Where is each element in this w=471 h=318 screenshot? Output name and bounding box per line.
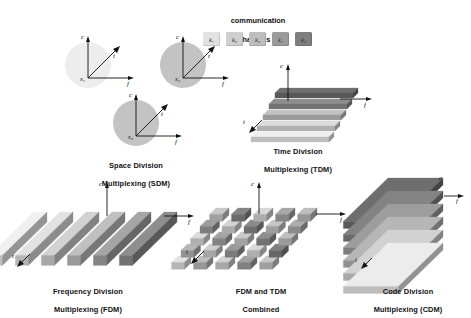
- combined-block-2-1-front: [200, 226, 213, 233]
- combined-block-2-2-front: [222, 226, 235, 233]
- channel-chip-4: k₄: [272, 32, 289, 46]
- tdm-axis-c: c: [280, 62, 283, 70]
- tdm-slab-1-front: [275, 93, 353, 98]
- tdm-slab-4-front: [257, 126, 335, 131]
- cdm-axis-c: c: [439, 174, 442, 182]
- sdm-axis-t-2: t: [208, 52, 210, 60]
- fdm-axis-t: t: [12, 252, 14, 260]
- panel-cdm-caption-line1: Code Division: [348, 287, 468, 296]
- sdm-axis-f-3: f: [175, 138, 177, 146]
- fdm-slab-5-front: [93, 255, 106, 265]
- panel-cdm-caption-line2: Multiplexing (CDM): [348, 305, 468, 314]
- sdm-axis-t-1: t: [113, 52, 115, 60]
- combined-block-5-3-front: [216, 262, 229, 269]
- combined-block-5-5-front: [260, 262, 273, 269]
- panel-fdm-caption: Frequency Division Multiplexing (FDM): [28, 278, 148, 318]
- combined-block-4-5-front: [269, 250, 282, 257]
- combined-block-1-1-front: [210, 214, 223, 221]
- panel-cdm: c f t Code Division Multiplexing (CDM): [340, 170, 471, 308]
- channel-chip-5: k₅: [295, 32, 312, 46]
- panel-fdm: c f t Frequency Division Multiplexing (F…: [12, 178, 202, 308]
- tdm-axis-t: t: [243, 118, 245, 126]
- combined-block-1-2-front: [232, 214, 245, 221]
- combined-graphic: [186, 178, 361, 283]
- sdm-axis-f-2: f: [222, 80, 224, 88]
- cdm-axis-f: f: [456, 197, 458, 205]
- fdm-slab-4-front: [67, 255, 80, 265]
- combined-block-4-4-front: [247, 250, 260, 257]
- fdm-slab-1-front: [0, 255, 2, 265]
- cdm-graphic: [340, 170, 471, 280]
- panel-combined-caption: FDM and TDM Combined: [206, 278, 316, 318]
- panel-tdm: c f t Time Division Multiplexing (TDM): [240, 58, 430, 168]
- tdm-slab-5-top: [251, 132, 334, 137]
- panel-tdm-caption-line1: Time Division: [240, 147, 356, 156]
- tdm-slab-3-top: [263, 110, 346, 115]
- combined-block-1-4-front: [276, 214, 289, 221]
- panel-tdm-caption-line2: Multiplexing (TDM): [240, 165, 356, 174]
- sdm-axis-c-1: c: [81, 33, 84, 41]
- combined-block-2-3-front: [244, 226, 257, 233]
- sdm-cell-label-2: s₂: [175, 75, 180, 83]
- combined-block-2-5-front: [288, 226, 301, 233]
- sdm-axis-f-1: f: [127, 80, 129, 88]
- combined-block-1-3-front: [254, 214, 267, 221]
- panel-cdm-caption: Code Division Multiplexing (CDM): [348, 278, 468, 318]
- combined-block-3-4-front: [257, 238, 270, 245]
- combined-axis-c: c: [251, 180, 254, 188]
- panel-tdm-caption: Time Division Multiplexing (TDM): [240, 138, 356, 183]
- combined-axis-t: t: [186, 248, 188, 256]
- combined-block-4-2-front: [203, 250, 216, 257]
- tdm-slab-2-top: [269, 99, 352, 104]
- cdm-axis-t: t: [355, 256, 357, 264]
- sdm-cell-label-3: s₃: [128, 133, 133, 141]
- combined-block-5-2-front: [194, 262, 207, 269]
- tdm-slab-2-front: [269, 104, 347, 109]
- panel-combined-caption-line2: Combined: [206, 305, 316, 314]
- tdm-slab-4-top: [257, 121, 340, 126]
- tdm-slab-3-front: [263, 115, 341, 120]
- sdm-axis-t-3: t: [161, 110, 163, 118]
- sdm-axis-c-3: c: [129, 91, 132, 99]
- tdm-slab-1-top: [275, 88, 358, 93]
- sdm-axis-c-2: c: [176, 33, 179, 41]
- panel-fdm-caption-line2: Multiplexing (FDM): [28, 305, 148, 314]
- panel-combined: c f t FDM and TDM Combined: [186, 178, 356, 308]
- combined-block-2-4-front: [266, 226, 279, 233]
- sdm-cell-label-1: s₁: [80, 75, 85, 83]
- combined-block-3-1-front: [191, 238, 204, 245]
- panel-fdm-caption-line1: Frequency Division: [28, 287, 148, 296]
- panel-combined-caption-line1: FDM and TDM: [206, 287, 316, 296]
- fdm-slab-3-front: [41, 255, 54, 265]
- tdm-axis-f: f: [364, 101, 366, 109]
- fdm-axis-c: c: [99, 180, 102, 188]
- combined-block-5-1-front: [172, 262, 185, 269]
- combined-block-3-5-front: [279, 238, 292, 245]
- combined-block-5-4-front: [238, 262, 251, 269]
- combined-block-3-3-front: [235, 238, 248, 245]
- combined-block-3-2-front: [213, 238, 226, 245]
- panel-sdm: c f t s₁ c f t s₂ c f t s₃ Space Divisio…: [55, 30, 240, 170]
- channel-chip-3: k₃: [249, 32, 266, 46]
- combined-block-1-5-front: [298, 214, 311, 221]
- combined-block-4-3-front: [225, 250, 238, 257]
- header-title-line1: communication: [213, 16, 303, 26]
- panel-sdm-caption-line1: Space Division: [78, 161, 194, 170]
- fdm-slab-6-front: [119, 255, 132, 265]
